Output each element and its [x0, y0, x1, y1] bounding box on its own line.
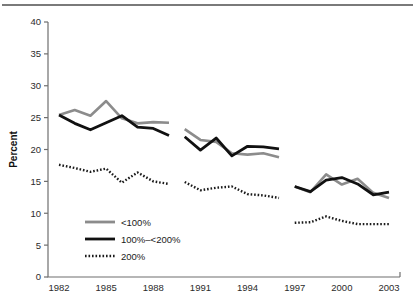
x-axis-tick-label: 1994	[237, 282, 258, 293]
series-line-1-segment-2	[185, 129, 279, 157]
line-chart: 0510152025303540198219851988199119941997…	[0, 0, 415, 306]
y-axis-tick-label: 40	[30, 16, 41, 27]
series-line-3-segment-2	[185, 182, 279, 198]
x-axis-tick-label: 1997	[284, 282, 305, 293]
figure-container: 0510152025303540198219851988199119941997…	[0, 0, 415, 306]
series-line-2-segment-1	[59, 115, 169, 135]
x-axis-tick-label: 1982	[48, 282, 69, 293]
y-axis-tick-label: 30	[30, 80, 41, 91]
y-axis-tick-label: 10	[30, 208, 41, 219]
y-axis-tick-label: 20	[30, 144, 41, 155]
x-axis-tick-label: 1985	[96, 282, 117, 293]
y-axis-title: Percent	[8, 130, 19, 167]
y-axis-tick-label: 0	[36, 271, 41, 282]
y-axis-tick-label: 5	[36, 240, 41, 251]
series-line-3-segment-1	[59, 165, 169, 184]
legend-label-3: 200%	[121, 251, 146, 262]
y-axis-tick-label: 15	[30, 176, 41, 187]
legend-label-2: 100%–<200%	[121, 234, 181, 245]
x-axis-tick-label: 2000	[331, 282, 352, 293]
y-axis-tick-label: 35	[30, 48, 41, 59]
x-axis-tick-label: 1991	[190, 282, 211, 293]
y-axis-tick-label: 25	[30, 112, 41, 123]
legend-label-1: <100%	[121, 217, 151, 228]
series-line-3-segment-3	[295, 216, 389, 224]
x-axis-tick-label: 2003	[378, 282, 399, 293]
x-axis-tick-label: 1988	[143, 282, 164, 293]
